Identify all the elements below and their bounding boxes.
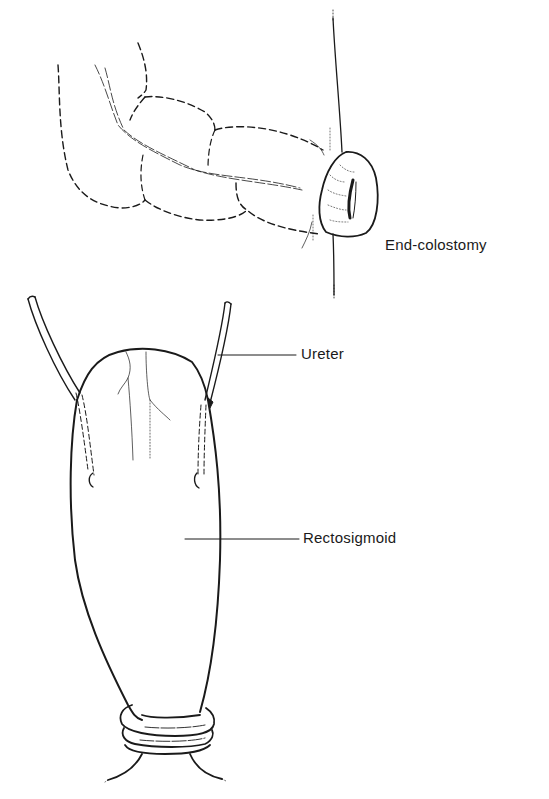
rectosigmoid-pouch: [71, 349, 221, 720]
diagram-figure: End-colostomy Ureter Rectosigmoid: [0, 0, 549, 799]
rectosigmoid-label: Rectosigmoid: [303, 529, 396, 546]
ureter-label: Ureter: [301, 345, 344, 362]
left-ureter: [28, 296, 94, 487]
end-colostomy-label: End-colostomy: [385, 236, 487, 253]
ring-band: [105, 705, 226, 782]
stoma: [319, 152, 377, 237]
right-ureter: [195, 302, 231, 488]
illustration: [0, 0, 549, 799]
colon-outline: [58, 10, 342, 298]
